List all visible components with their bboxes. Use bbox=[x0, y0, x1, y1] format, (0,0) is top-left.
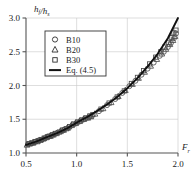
legend-label: B30 bbox=[66, 55, 80, 65]
x-tick-label: 1.0 bbox=[71, 159, 83, 169]
y-tick-label: 3.0 bbox=[9, 13, 21, 23]
legend-label: B10 bbox=[66, 35, 80, 45]
scatter-chart: 0.51.01.52.01.01.52.02.53.0 B10B20B30Eq.… bbox=[0, 0, 196, 185]
legend-label: Eq. (4.5) bbox=[66, 65, 96, 75]
x-tick-label: 0.5 bbox=[20, 159, 32, 169]
y-tick-label: 1.5 bbox=[9, 114, 21, 124]
y-tick-label: 2.5 bbox=[9, 47, 21, 57]
figure-container: 0.51.01.52.01.01.52.02.53.0 B10B20B30Eq.… bbox=[0, 0, 196, 185]
x-tick-label: 1.5 bbox=[122, 159, 134, 169]
legend-label: B20 bbox=[66, 45, 80, 55]
x-tick-label: 2.0 bbox=[172, 159, 184, 169]
y-axis-label: hf/hs bbox=[34, 4, 50, 17]
legend: B10B20B30Eq. (4.5) bbox=[45, 31, 106, 76]
y-tick-label: 1.0 bbox=[9, 148, 21, 158]
y-tick-label: 2.0 bbox=[9, 81, 21, 91]
x-axis-label: Fr bbox=[181, 142, 191, 154]
